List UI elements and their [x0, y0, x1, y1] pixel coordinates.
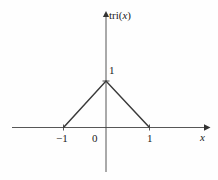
x-tick-label-one: 1	[147, 133, 153, 144]
y-axis-label: tri(x)	[109, 10, 131, 21]
plot-canvas	[0, 0, 218, 180]
triangle-function-figure: tri(x) 1 −1 0 1 x	[0, 0, 218, 180]
y-axis	[103, 11, 109, 172]
x-axis	[12, 124, 211, 131]
tri-function-curve	[64, 81, 150, 128]
y-axis-label-prefix: tri(	[109, 9, 122, 21]
x-tick-label-zero: 0	[92, 133, 98, 144]
x-axis-arrowhead	[204, 124, 211, 131]
y-axis-label-suffix: )	[127, 9, 131, 21]
peak-value-label: 1	[109, 65, 115, 76]
x-axis-label: x	[200, 132, 205, 143]
x-tick-label-neg-one: −1	[56, 133, 68, 144]
